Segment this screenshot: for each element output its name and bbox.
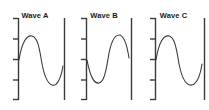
- wave-b-curve: [87, 35, 129, 83]
- wave-panel-b: Wave B: [70, 0, 138, 110]
- wave-c-axis: [150, 18, 156, 100]
- wave-c-curve: [156, 36, 202, 85]
- wave-panel-a: Wave A: [0, 0, 70, 110]
- wave-a-curve: [19, 36, 63, 85]
- wave-b-plot: [70, 0, 138, 110]
- wave-a-axis: [13, 18, 19, 100]
- wave-comparison-figure: Wave A Wave B: [0, 0, 209, 110]
- wave-a-plot: [0, 0, 70, 110]
- wave-c-plot: [138, 0, 209, 110]
- wave-b-axis: [81, 18, 87, 100]
- wave-panel-c: Wave C: [138, 0, 209, 110]
